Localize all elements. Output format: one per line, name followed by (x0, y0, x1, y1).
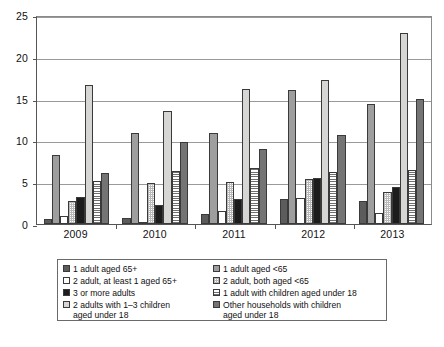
bar (305, 179, 313, 224)
y-tick-mark (33, 59, 37, 60)
bar-group-2010 (116, 17, 195, 224)
y-tick-label: 20 (4, 52, 28, 64)
bar (329, 172, 337, 224)
bar (122, 218, 130, 224)
legend-item: Other households with children aged unde… (213, 300, 381, 321)
legend-label: Other households with children aged unde… (223, 300, 341, 321)
legend-swatch-icon (213, 265, 220, 272)
bar (60, 216, 68, 224)
bar (101, 173, 109, 224)
y-tick-mark (33, 142, 37, 143)
bar-groups (37, 17, 431, 224)
bar (163, 111, 171, 224)
legend-label: 2 adults with 1–3 children aged under 18 (73, 300, 170, 321)
bar (201, 214, 209, 224)
bar (93, 181, 101, 224)
chart-figure: 20092010201120122013 1 adult aged 65+2 a… (0, 0, 444, 347)
legend-swatch-icon (213, 289, 220, 296)
bar (172, 171, 180, 224)
bar (85, 85, 93, 224)
legend-item: 3 or more adults (63, 288, 213, 298)
bar (259, 149, 267, 224)
y-tick-label: 0 (4, 219, 28, 231)
x-axis-label-2013: 2013 (353, 228, 432, 240)
legend-label: 3 or more adults (73, 288, 135, 298)
legend-label: 2 adult, at least 1 aged 65+ (73, 276, 177, 286)
y-tick-label: 10 (4, 135, 28, 147)
legend-label: 1 adult with children aged under 18 (223, 288, 357, 298)
legend-label: 2 adult, both aged <65 (223, 276, 309, 286)
bar (383, 192, 391, 224)
bar (68, 201, 76, 224)
legend-column-left: 1 adult aged 65+2 adult, at least 1 aged… (63, 264, 213, 317)
x-axis-label-2012: 2012 (274, 228, 353, 240)
bar (337, 135, 345, 224)
bar (139, 222, 147, 225)
bar (313, 178, 321, 224)
bar (131, 133, 139, 224)
legend-swatch-icon (63, 277, 70, 284)
x-axis-label-2009: 2009 (36, 228, 115, 240)
legend-swatch-icon (213, 301, 220, 308)
x-axis-label-2011: 2011 (194, 228, 273, 240)
x-axis-label-2010: 2010 (115, 228, 194, 240)
legend-swatch-icon (63, 289, 70, 296)
plot-area (36, 16, 432, 225)
legend-item: 2 adult, at least 1 aged 65+ (63, 276, 213, 286)
bar (76, 197, 84, 224)
bar (280, 199, 288, 224)
y-tick-mark (33, 17, 37, 18)
legend-item: 1 adult aged <65 (213, 264, 381, 274)
bar (392, 187, 400, 224)
bar (44, 219, 52, 224)
bar (52, 155, 60, 224)
legend-column-right: 1 adult aged <652 adult, both aged <651 … (213, 264, 381, 317)
y-tick-label: 25 (4, 10, 28, 22)
legend-label: 1 adult aged <65 (223, 264, 287, 274)
bar (359, 201, 367, 224)
bar (218, 211, 226, 224)
y-tick-mark (33, 184, 37, 185)
bar (416, 99, 424, 224)
chart-legend: 1 adult aged 65+2 adult, at least 1 aged… (57, 259, 387, 321)
legend-swatch-icon (63, 301, 70, 308)
bar (288, 90, 296, 224)
x-axis-labels: 20092010201120122013 (36, 228, 432, 240)
bar (400, 33, 408, 224)
legend-swatch-icon (63, 265, 70, 272)
bar (375, 213, 383, 224)
legend-item: 1 adult with children aged under 18 (213, 288, 381, 298)
bar (180, 142, 188, 224)
bar-group-2012 (273, 17, 352, 224)
legend-item: 2 adults with 1–3 children aged under 18 (63, 300, 213, 321)
legend-label: 1 adult aged 65+ (73, 264, 137, 274)
bar-group-2011 (195, 17, 274, 224)
bar (367, 104, 375, 224)
y-tick-mark (33, 226, 37, 227)
bar (321, 80, 329, 224)
legend-item: 1 adult aged 65+ (63, 264, 213, 274)
bar (155, 205, 163, 224)
y-tick-label: 15 (4, 94, 28, 106)
bar (226, 182, 234, 224)
legend-swatch-icon (213, 277, 220, 284)
bar (250, 168, 258, 224)
y-tick-label: 5 (4, 177, 28, 189)
y-tick-mark (33, 101, 37, 102)
bar (234, 199, 242, 224)
bar (147, 183, 155, 224)
bar-group-2009 (37, 17, 116, 224)
bar (296, 198, 304, 224)
legend-item: 2 adult, both aged <65 (213, 276, 381, 286)
bar (408, 170, 416, 224)
bar (209, 133, 217, 224)
bar (242, 89, 250, 224)
bar-group-2013 (352, 17, 431, 224)
